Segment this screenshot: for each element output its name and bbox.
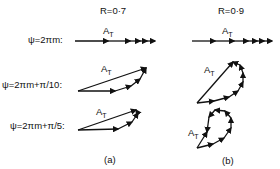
phasor-row1-col-b: AT xyxy=(192,25,272,41)
row-label-psi-pi-over-5: ψ=2πm+π/5: xyxy=(10,120,65,131)
resultant-label: AT xyxy=(204,64,215,77)
phasor-row3-col-b: AT xyxy=(188,110,231,148)
resultant-label: AT xyxy=(96,106,107,119)
caption-b: (b) xyxy=(222,155,234,166)
phasor-row2-col-a: AT xyxy=(78,63,146,91)
column-header-r07: R=0·7 xyxy=(100,5,126,16)
phasor-row1-col-a: AT xyxy=(75,25,155,41)
phasor-row2-col-b: AT xyxy=(197,62,243,103)
resultant-label: AT xyxy=(188,127,199,140)
phasor-row3-col-a: AT xyxy=(78,106,138,130)
row-label-psi-2pim: ψ=2πm: xyxy=(28,34,63,45)
caption-a: (a) xyxy=(104,154,116,165)
row-label-psi-pi-over-10: ψ=2πm+π/10: xyxy=(2,79,62,90)
phasor-diagram-figure: R=0·7 R=0·9 ψ=2πm: ψ=2πm+π/10: ψ=2πm+π/5… xyxy=(0,0,280,169)
resultant-label: AT xyxy=(101,63,112,76)
column-header-r09: R=0·9 xyxy=(218,5,244,16)
resultant-label: AT xyxy=(103,25,114,38)
resultant-label: AT xyxy=(222,25,233,38)
